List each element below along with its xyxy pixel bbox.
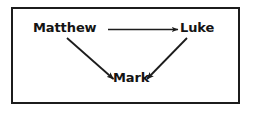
edge-luke-to-mark [147, 38, 187, 79]
node-label-mark: Mark [113, 71, 149, 85]
node-label-matthew: Matthew [33, 21, 97, 35]
node-label-luke: Luke [180, 21, 214, 35]
diagram-canvas: Matthew Luke Mark [0, 0, 254, 114]
edge-matthew-to-mark [67, 38, 114, 79]
diagram-edges-layer [0, 0, 254, 114]
